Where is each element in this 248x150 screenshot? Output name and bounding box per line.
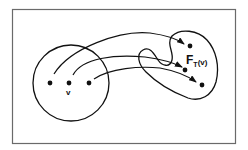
target-point-3: [200, 83, 205, 88]
mapping-arrow-1: [54, 33, 184, 74]
target-point-1: [188, 44, 193, 49]
frame-border: [13, 10, 236, 144]
diagram-canvas: v FT(v): [0, 0, 248, 150]
label-F: F: [186, 53, 193, 67]
label-arg-v: (v): [198, 58, 208, 67]
source-point-v: [67, 81, 72, 86]
point-label-v: v: [66, 88, 71, 97]
target-point-2: [183, 68, 188, 73]
source-point-1: [48, 81, 53, 86]
target-set-label: FT(v): [186, 53, 208, 68]
source-point-3: [87, 81, 92, 86]
